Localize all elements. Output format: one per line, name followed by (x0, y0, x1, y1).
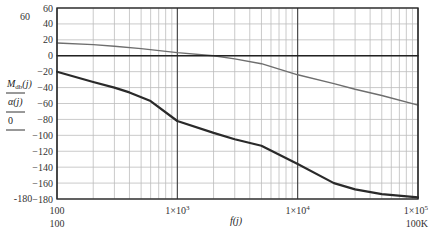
y-tick-label: −40 (37, 82, 53, 93)
y-extra-bottom-label: -180 (14, 193, 32, 204)
y-tick-label: −80 (37, 114, 53, 125)
minor-gridlines (57, 8, 418, 199)
x-tick-sublabel: 100 (50, 218, 65, 229)
y-tick-label: 0 (48, 50, 53, 61)
data-series (57, 43, 418, 197)
y-tick-label: −100 (32, 130, 53, 141)
x-tick-label: 1×103 (165, 204, 190, 216)
y-tick-label: −60 (37, 98, 53, 109)
y-tick-label: 40 (43, 18, 53, 29)
x-tick-sublabel: 100K (406, 218, 429, 229)
y-tick-label: 20 (43, 34, 53, 45)
y-tick-labels: 6040200−20−40−60−80−100−120−140−160−180 (32, 3, 53, 205)
x-axis-label: f(j) (230, 215, 243, 227)
y-extra-top-label: 60 (20, 11, 30, 22)
y-label-zero: 0 (8, 115, 13, 126)
y-label-phase: α(j) (8, 96, 23, 108)
y-tick-label: −140 (32, 162, 53, 173)
x-tick-label: 1×105 (404, 204, 429, 216)
y-label-magnitude: Mdb(j) (6, 78, 32, 91)
y-tick-label: 60 (43, 3, 53, 14)
y-tick-label: −20 (37, 66, 53, 77)
x-tick-label: 1×104 (286, 204, 311, 216)
x-tick-label: 100 (50, 205, 65, 216)
bode-chart: 6040200−20−40−60−80−100−120−140−160−180 … (0, 0, 430, 233)
y-tick-label: −180 (32, 194, 53, 205)
y-axis-label: Mdb(j) α(j) 0 (6, 78, 32, 130)
series-line-0 (57, 43, 418, 105)
y-tick-label: −120 (32, 146, 53, 157)
y-tick-label: −160 (32, 178, 53, 189)
